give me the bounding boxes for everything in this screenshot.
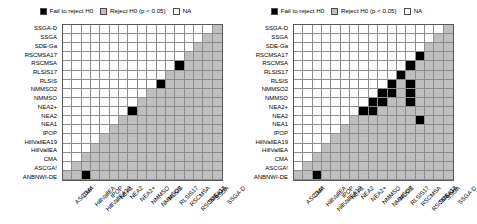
heatmap-cell (119, 134, 128, 143)
heatmap-cell (100, 144, 109, 153)
heatmap-cell (444, 43, 453, 52)
heatmap-cell (425, 171, 434, 180)
heatmap-cell (203, 71, 212, 80)
y-axis-label: SSGA-D (0, 24, 60, 33)
y-axis-label: RSCMSA (0, 59, 60, 68)
heatmap-cell (294, 125, 303, 134)
heatmap-cell (341, 162, 350, 171)
heatmap-cell (166, 171, 175, 180)
heatmap-cell (341, 52, 350, 61)
heatmap-cell (425, 144, 434, 153)
legend-left: Fail to reject H0 Reject H0 (p < 0.05) N… (0, 5, 231, 17)
heatmap-cell (331, 34, 340, 43)
heatmap-cell (416, 134, 425, 143)
heatmap-cell (213, 61, 222, 70)
heatmap-cell (175, 116, 184, 125)
heatmap-cell (444, 52, 453, 61)
heatmap-cell (166, 80, 175, 89)
heatmap-cell (341, 34, 350, 43)
heatmap-cell (313, 125, 322, 134)
heatmap-cell (157, 144, 166, 153)
heatmap-cell (63, 71, 72, 80)
heatmap-cell (63, 162, 72, 171)
heatmap-cell (157, 98, 166, 107)
heatmap-cell (444, 25, 453, 34)
heatmap-cell (294, 80, 303, 89)
heatmap-cell (147, 107, 156, 116)
heatmap-cell (63, 98, 72, 107)
panel-right: Fail to reject H0 Reject H0 (p < 0.05) N… (231, 0, 462, 224)
heatmap-cell (397, 34, 406, 43)
heatmap-cell (434, 61, 443, 70)
heatmap-cell (350, 52, 359, 61)
heatmap-cell (397, 171, 406, 180)
heatmap-cell (313, 43, 322, 52)
heatmap-cell (63, 89, 72, 98)
heatmap-cell (166, 61, 175, 70)
heatmap-cell (128, 71, 137, 80)
heatmap-cell (388, 153, 397, 162)
heatmap-cell (185, 80, 194, 89)
heatmap-cell (128, 153, 137, 162)
heatmap-cell (119, 125, 128, 134)
heatmap-cell (444, 34, 453, 43)
heatmap-cell (322, 34, 331, 43)
y-axis-label: NMMSO (231, 94, 291, 103)
heatmap-cell (341, 144, 350, 153)
heatmap-cell (175, 107, 184, 116)
heatmap-cell (175, 25, 184, 34)
heatmap-cell (294, 116, 303, 125)
heatmap-cell (157, 153, 166, 162)
heatmap-cell (397, 89, 406, 98)
heatmap-cell (72, 125, 81, 134)
heatmap-cell (303, 34, 312, 43)
legend-entry-na: NA (173, 8, 192, 15)
heatmap-cell (416, 80, 425, 89)
heatmap-cell (213, 89, 222, 98)
legend-label-reject: Reject H0 (p < 0.05) (110, 8, 166, 14)
y-axis-label: HillVallEA (0, 146, 60, 155)
heatmap-cell (185, 153, 194, 162)
heatmap-cell (331, 107, 340, 116)
heatmap-cell (444, 116, 453, 125)
heatmap-cell (157, 71, 166, 80)
heatmap-cell (350, 116, 359, 125)
heatmap-cell (128, 144, 137, 153)
heatmap-cell (331, 171, 340, 180)
heatmap-cell (119, 34, 128, 43)
heatmap-cell (110, 98, 119, 107)
y-axis-label: CMA (0, 155, 60, 164)
heatmap-cell (350, 125, 359, 134)
heatmap-cell (175, 144, 184, 153)
heatmap-cell (185, 144, 194, 153)
heatmap-cell (175, 61, 184, 70)
heatmap-cell (341, 125, 350, 134)
y-axis-label: NMMSO (0, 94, 60, 103)
heatmap-cell (350, 43, 359, 52)
heatmap-cell (203, 171, 212, 180)
heatmap-cell (213, 71, 222, 80)
heatmap-cell (194, 34, 203, 43)
heatmap-cell (194, 25, 203, 34)
heatmap-cell (397, 43, 406, 52)
y-axis-label: RLSIS (231, 76, 291, 85)
heatmap-cell (406, 144, 415, 153)
heatmap-cell (303, 52, 312, 61)
legend-entry-fail: Fail to reject H0 (40, 8, 93, 15)
heatmap-cell (72, 80, 81, 89)
heatmap-cell (369, 61, 378, 70)
heatmap-cell (388, 125, 397, 134)
heatmap-cell (110, 125, 119, 134)
heatmap-cell (203, 89, 212, 98)
heatmap-cell (303, 25, 312, 34)
heatmap-cell (128, 25, 137, 34)
legend-swatch-fail-icon (40, 8, 47, 15)
heatmap-cell (194, 71, 203, 80)
heatmap-cell (388, 98, 397, 107)
heatmap-cell (72, 52, 81, 61)
legend-label-na: NA (414, 8, 423, 14)
heatmap-cell (388, 162, 397, 171)
heatmap-cell (185, 116, 194, 125)
heatmap-cell (203, 116, 212, 125)
heatmap-cell (406, 98, 415, 107)
